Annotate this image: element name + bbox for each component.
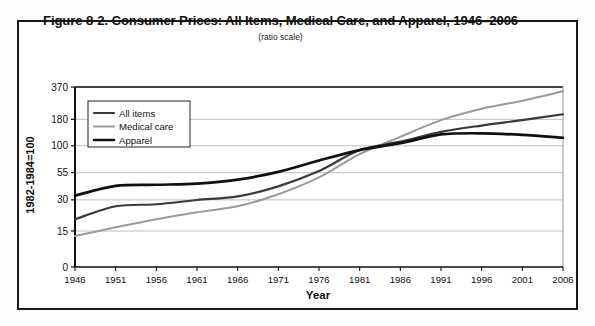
x-axis-tick-label: 1946	[64, 274, 85, 285]
x-axis-tick-label: 1961	[186, 274, 207, 285]
x-axis-tick-label: 1991	[430, 274, 451, 285]
x-axis-tick-label: 2001	[512, 274, 533, 285]
chart-plot: 0153055100180370 19461951195619611966197…	[0, 0, 595, 326]
x-axis-tick-label: 1951	[105, 274, 126, 285]
y-axis-group: 0153055100180370	[51, 82, 75, 273]
x-axis-tick-label: 1976	[308, 274, 329, 285]
x-axis-group: 1946195119561961196619711976198119861991…	[64, 267, 573, 285]
y-axis-tick-label: 180	[51, 114, 68, 125]
y-axis-tick-label: 30	[57, 194, 69, 205]
x-axis-title: Year	[306, 289, 331, 301]
legend-label-all-items: All items	[119, 108, 155, 119]
x-axis-tick-label: 2006	[552, 274, 573, 285]
y-axis-title: 1982-1984=100	[24, 136, 36, 213]
x-axis-tick-label: 1986	[390, 274, 411, 285]
x-axis-tick-label: 1956	[146, 274, 167, 285]
y-axis-tick-label: 0	[62, 262, 68, 273]
legend-label-apparel: Apparel	[119, 135, 152, 146]
x-axis-tick-label: 1996	[471, 274, 492, 285]
x-axis-tick-label: 1966	[227, 274, 248, 285]
x-axis-tick-label: 1971	[268, 274, 289, 285]
x-axis-tick-label: 1981	[349, 274, 370, 285]
legend-label-medical-care: Medical care	[119, 121, 173, 132]
figure-container: Figure 8-2. Consumer Prices: All Items, …	[0, 0, 595, 326]
y-axis-tick-label: 15	[57, 226, 69, 237]
y-axis-tick-label: 370	[51, 82, 68, 93]
y-axis-tick-label: 100	[51, 140, 68, 151]
y-axis-tick-label: 55	[57, 167, 69, 178]
legend-group: All itemsMedical careApparel	[88, 101, 190, 147]
